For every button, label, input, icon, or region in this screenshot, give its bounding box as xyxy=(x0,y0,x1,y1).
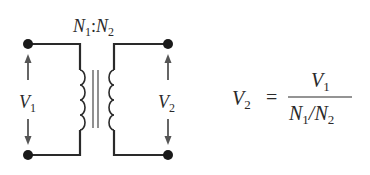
equation-numerator: V1 xyxy=(311,69,330,94)
secondary-up-arrow-icon xyxy=(165,54,172,63)
voltage-equation: V2 = V1 N1/N2 xyxy=(232,69,352,127)
primary-coil xyxy=(80,70,85,130)
primary-circuit xyxy=(28,44,85,155)
primary-top-wire xyxy=(28,44,80,70)
primary-up-arrow-icon xyxy=(25,54,32,63)
secondary-bottom-wire xyxy=(114,130,168,155)
primary-bottom-terminal xyxy=(23,150,33,160)
secondary-top-terminal xyxy=(163,39,173,49)
secondary-down-arrow-icon xyxy=(165,136,172,145)
primary-voltage-label: V1 xyxy=(19,92,36,115)
turns-ratio-label: N1:N2 xyxy=(72,16,114,39)
secondary-coil xyxy=(109,70,114,130)
primary-down-arrow-icon xyxy=(25,136,32,145)
equation-equals: = xyxy=(266,86,277,108)
equation-denominator: N1/N2 xyxy=(288,102,334,127)
primary-bottom-wire xyxy=(28,130,80,155)
primary-top-terminal xyxy=(23,39,33,49)
secondary-top-wire xyxy=(114,44,168,70)
equation-lhs: V2 xyxy=(232,87,251,112)
transformer-core xyxy=(93,70,98,128)
secondary-bottom-terminal xyxy=(163,150,173,160)
transformer-diagram: N1:N2 V1 V2 xyxy=(0,0,370,175)
secondary-voltage-label: V2 xyxy=(158,92,175,115)
